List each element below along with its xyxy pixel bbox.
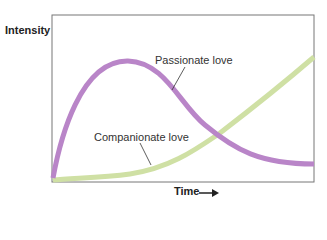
- y-axis-label: Intensity: [5, 24, 50, 36]
- x-axis-label: Time: [174, 185, 199, 197]
- passionate-love-label: Passionate love: [155, 54, 233, 66]
- arrow-head-icon: [212, 189, 219, 197]
- companionate-love-label: Companionate love: [94, 131, 189, 143]
